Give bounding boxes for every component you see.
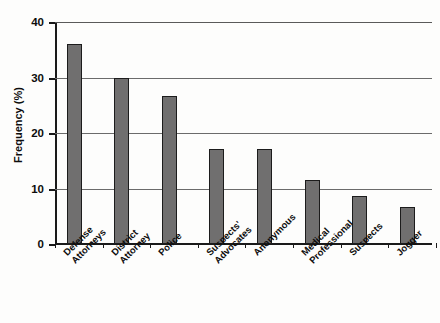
x-tick-mark-3 <box>198 243 199 248</box>
y-tick-label-20: 20 <box>0 127 44 139</box>
gridline-20 <box>55 133 432 134</box>
x-tick-mark-7 <box>388 243 389 248</box>
bar-0 <box>67 44 82 244</box>
gridline-30 <box>55 78 432 79</box>
y-tick-label-40: 40 <box>0 16 44 28</box>
y-tick-label-0: 0 <box>0 238 44 250</box>
y-axis-title: Frequency (%) <box>9 0 27 250</box>
x-tick-mark-4 <box>245 243 246 248</box>
x-tick-mark-2 <box>150 243 151 248</box>
x-tick-mark-1 <box>103 243 104 248</box>
x-tick-mark-5 <box>293 243 294 248</box>
gridline-40 <box>55 22 432 23</box>
x-tick-mark-6 <box>341 243 342 248</box>
y-tick-label-10: 10 <box>0 183 44 195</box>
x-tick-mark-8 <box>436 243 437 248</box>
x-tick-mark-0 <box>55 243 56 248</box>
y-tick-label-30: 30 <box>0 72 44 84</box>
bar-chart-figure: Frequency (%) 010203040 DefenseAttorneys… <box>0 0 440 323</box>
